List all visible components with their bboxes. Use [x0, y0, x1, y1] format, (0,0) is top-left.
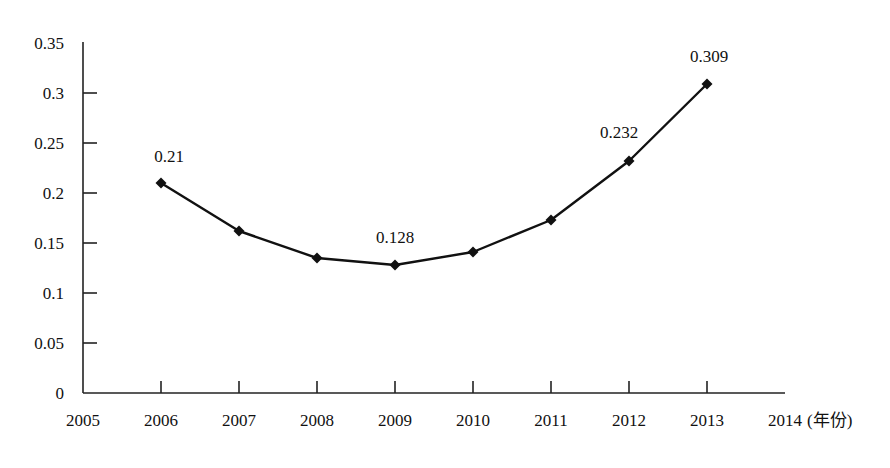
data-label: 0.309: [690, 47, 728, 66]
data-label: 0.21: [154, 147, 184, 166]
y-axis: 00.050.10.150.20.250.30.35: [34, 34, 97, 403]
x-axis: 2005200620072008200920102011201220132014…: [66, 381, 852, 430]
diamond-marker: [468, 247, 479, 258]
y-tick-label: 0.35: [34, 34, 64, 53]
x-tick-label: 2013: [690, 411, 724, 430]
y-tick-label: 0.1: [43, 284, 64, 303]
x-tick-label: 2009: [378, 411, 412, 430]
x-tick-label: 2005: [66, 411, 100, 430]
data-label: 0.232: [600, 123, 638, 142]
y-tick-label: 0.3: [43, 84, 64, 103]
y-tick-label: 0.05: [34, 334, 64, 353]
x-tick-label: 2011: [534, 411, 567, 430]
x-tick-label: 2007: [222, 411, 257, 430]
y-tick-label: 0.25: [34, 134, 64, 153]
y-tick-label: 0.15: [34, 234, 64, 253]
data-label: 0.128: [376, 228, 414, 247]
diamond-marker: [390, 260, 401, 271]
x-tick-label: 2006: [144, 411, 178, 430]
diamond-marker: [156, 178, 167, 189]
data-series: [156, 79, 713, 271]
x-tick-label: 2010: [456, 411, 490, 430]
x-axis-unit-label: (年份): [807, 411, 852, 430]
x-tick-label: 2014: [768, 411, 803, 430]
diamond-marker: [312, 253, 323, 264]
x-tick-label: 2012: [612, 411, 646, 430]
diamond-marker: [234, 226, 245, 237]
y-tick-label: 0: [56, 384, 65, 403]
x-tick-label: 2008: [300, 411, 334, 430]
series-line: [161, 84, 707, 265]
y-tick-label: 0.2: [43, 184, 64, 203]
line-chart: 00.050.10.150.20.250.30.35 2005200620072…: [0, 0, 890, 468]
